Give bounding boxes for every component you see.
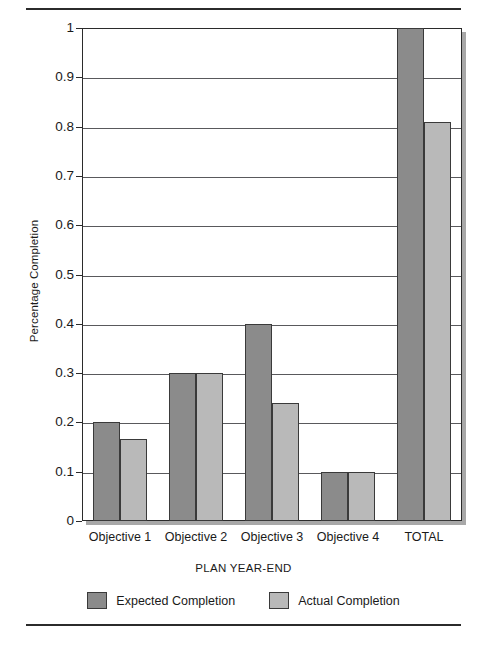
bar-actual: [196, 373, 223, 521]
y-axis-tick-label: 0.3: [55, 366, 74, 380]
y-axis-tick-label: 0.4: [55, 317, 74, 331]
x-axis-title: PLAN YEAR-END: [0, 562, 487, 574]
y-axis-tick-label: 0: [66, 514, 74, 528]
legend-swatch: [269, 592, 289, 609]
bar-expected: [169, 373, 196, 521]
y-axis-tick-label: 0.7: [55, 169, 74, 183]
y-axis-tick-label: 1: [66, 21, 74, 35]
legend-label: Expected Completion: [116, 594, 235, 608]
legend-label: Actual Completion: [298, 594, 399, 608]
y-axis-tick-label: 0.6: [55, 218, 74, 232]
x-axis-category-label: Objective 1: [89, 530, 152, 544]
legend-item: Expected Completion: [87, 592, 235, 609]
bar-chart-figure: Percentage Completion 00.10.20.30.40.50.…: [0, 0, 487, 645]
y-axis-title: Percentage Completion: [28, 181, 40, 381]
chart-legend: Expected CompletionActual Completion: [0, 592, 487, 609]
y-axis-tick-label: 0.1: [55, 465, 74, 479]
y-axis-tick-label: 0.8: [55, 120, 74, 134]
x-axis-category-label: Objective 4: [317, 530, 380, 544]
bar-expected: [245, 324, 272, 521]
bar-actual: [272, 403, 299, 521]
bar-expected: [397, 28, 424, 521]
x-axis-category-label: Objective 3: [241, 530, 304, 544]
bar-actual: [424, 122, 451, 521]
bars-layer: [82, 28, 462, 521]
x-axis-category-label: Objective 2: [165, 530, 228, 544]
chart-page: Percentage Completion 00.10.20.30.40.50.…: [0, 0, 487, 645]
bar-actual: [348, 472, 375, 521]
bar-expected: [321, 472, 348, 521]
legend-swatch: [87, 592, 107, 609]
x-axis-category-label: TOTAL: [404, 530, 443, 544]
y-axis-tick-label: 0.2: [55, 415, 74, 429]
legend-item: Actual Completion: [269, 592, 399, 609]
bar-expected: [93, 422, 120, 521]
y-axis-tick-label: 0.5: [55, 268, 74, 282]
y-axis-tick-label: 0.9: [55, 70, 74, 84]
y-axis-tick: [76, 521, 82, 522]
bar-actual: [120, 439, 147, 521]
